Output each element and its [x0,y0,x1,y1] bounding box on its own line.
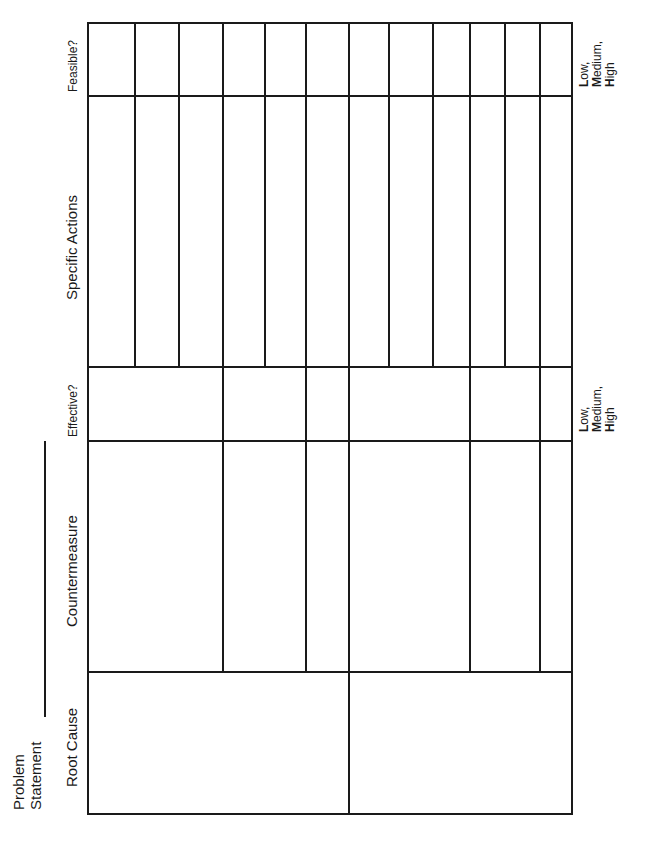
problem-statement-label-line2: Statement [27,742,44,810]
column-header-specific-actions: Specific Actions [63,195,80,300]
root-cause-countermeasure-matrix [87,22,573,815]
column-header-countermeasure: Countermeasure [63,515,80,627]
feasible-rating-scale: Low, Medium, High [578,41,617,87]
problem-statement-field[interactable] [44,441,46,717]
feasible-cells-row[interactable] [89,24,571,95]
column-header-root-cause: Root Cause [63,708,80,787]
specific-actions-cells-row[interactable] [89,97,571,366]
effective-cells-row[interactable] [89,368,571,440]
column-header-effective: Effective? [66,385,80,437]
root-cause-cells-row[interactable] [89,673,571,813]
effective-rating-scale: Low, Medium, High [578,386,617,432]
countermeasure-cells-row[interactable] [89,442,571,671]
problem-statement-label: Problem Statement [10,742,44,810]
column-header-feasible: Feasible? [66,40,80,92]
page-title-cutoff [0,0,647,6]
problem-statement-label-line1: Problem [10,742,27,810]
